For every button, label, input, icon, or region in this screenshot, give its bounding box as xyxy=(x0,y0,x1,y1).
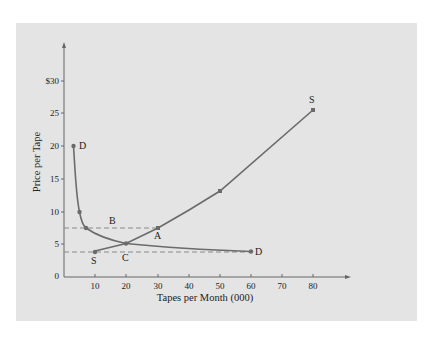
svg-text:20: 20 xyxy=(122,281,132,291)
svg-text:80: 80 xyxy=(309,281,319,291)
label-b: B xyxy=(109,215,116,226)
svg-text:15: 15 xyxy=(50,174,60,184)
x-axis-arrow-icon xyxy=(345,275,351,279)
label-c: C xyxy=(122,252,129,263)
svg-text:20: 20 xyxy=(50,141,60,151)
svg-text:5: 5 xyxy=(55,239,60,249)
y-tick-labels: 0 5 10 15 20 25 $30 xyxy=(46,76,60,281)
supply-demand-chart: 0 5 10 15 20 25 $30 10 20 30 40 50 60 70… xyxy=(0,0,434,337)
svg-text:60: 60 xyxy=(247,281,257,291)
svg-text:10: 10 xyxy=(50,207,60,217)
svg-text:0: 0 xyxy=(55,271,60,281)
x-tick-labels: 10 20 30 40 50 60 70 80 xyxy=(91,281,319,291)
label-d-top: D xyxy=(79,140,86,151)
svg-text:70: 70 xyxy=(278,281,288,291)
svg-text:25: 25 xyxy=(50,108,60,118)
svg-text:40: 40 xyxy=(185,281,195,291)
y-axis-title: Price per Tape xyxy=(31,132,42,193)
supply-curve xyxy=(95,110,313,251)
svg-text:30: 30 xyxy=(154,281,164,291)
data-points xyxy=(71,108,315,254)
label-s-top: S xyxy=(309,94,315,105)
svg-text:50: 50 xyxy=(216,281,226,291)
y-axis-arrow-icon xyxy=(62,42,66,48)
x-axis-title: Tapes per Month (000) xyxy=(157,292,254,304)
svg-text:$30: $30 xyxy=(46,76,60,86)
demand-curve xyxy=(74,146,252,252)
svg-text:10: 10 xyxy=(91,281,101,291)
label-s-bottom: S xyxy=(91,255,97,266)
label-a: A xyxy=(154,230,162,241)
label-d-right: D xyxy=(255,246,262,257)
